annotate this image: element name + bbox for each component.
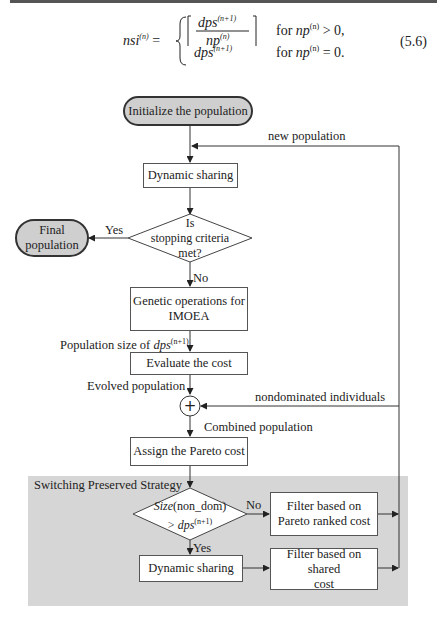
filter-pareto-line-1: Filter based on xyxy=(278,499,370,514)
start-terminator: Initialize the population xyxy=(123,96,253,126)
no-label-2: No xyxy=(246,498,261,513)
decision-size-nondom: Size(non_dom) > dps(n+1) xyxy=(145,499,235,533)
nondominated-individuals-label: nondominated individuals xyxy=(255,390,385,405)
evaluate-label: Evaluate the cost xyxy=(146,356,231,371)
final-population-terminator: Final population xyxy=(15,219,89,257)
new-population-label: new population xyxy=(268,129,345,144)
assign-pareto-cost-box: Assign the Pareto cost xyxy=(130,437,248,466)
yes-label-1: Yes xyxy=(105,223,123,238)
filter-pareto-line-2: Pareto ranked cost xyxy=(278,514,370,529)
evaluate-cost-box: Evaluate the cost xyxy=(130,352,248,375)
evolved-population-label: Evolved population xyxy=(87,379,185,394)
genetic-line-2: IMOEA xyxy=(133,309,245,324)
dynamic-sharing-box: Dynamic sharing xyxy=(143,163,238,188)
decision-stopping-criteria: Is stopping criteria met? xyxy=(140,216,240,261)
assign-label: Assign the Pareto cost xyxy=(133,444,244,459)
filter-shared-cost-box: Filter based on shared cost xyxy=(270,548,378,590)
dynamic-sharing-2-box: Dynamic sharing xyxy=(139,555,243,582)
genetic-line-1: Genetic operations for xyxy=(133,294,245,309)
dynamic-sharing-2-label: Dynamic sharing xyxy=(148,561,234,576)
start-label: Initialize the population xyxy=(128,104,247,119)
filter-shared-line-2: cost xyxy=(271,577,377,592)
decision2-line-1: Size(non_dom) xyxy=(145,499,235,514)
filter-shared-line-1: Filter based on shared xyxy=(271,547,377,577)
decision-line-3: met? xyxy=(140,246,240,261)
yes-label-2: Yes xyxy=(193,541,211,556)
genetic-operations-box: Genetic operations for IMOEA xyxy=(130,287,248,331)
combined-population-label: Combined population xyxy=(204,420,313,435)
filter-pareto-ranked-box: Filter based on Pareto ranked cost xyxy=(270,492,378,536)
decision-line-2: stopping criteria xyxy=(140,231,240,246)
decision-line-1: Is xyxy=(140,216,240,231)
final-line-2: population xyxy=(25,238,78,253)
final-line-1: Final xyxy=(25,223,78,238)
combine-plus-icon: + xyxy=(183,396,197,416)
dynamic-sharing-label: Dynamic sharing xyxy=(148,168,234,183)
no-label-1: No xyxy=(193,271,208,286)
decision2-line-2: > dps(n+1) xyxy=(145,514,235,533)
population-size-label: Population size of dps(n+1) xyxy=(60,337,189,353)
